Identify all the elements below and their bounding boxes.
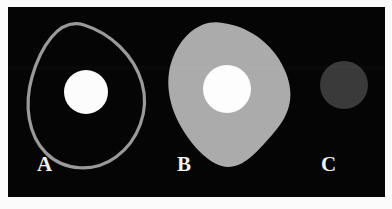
specimen-c-disc (320, 61, 368, 109)
panel-label-c: C (321, 154, 337, 175)
specimen-c-shape (300, 21, 385, 181)
specimen-a-core (64, 70, 108, 114)
panel-label-b: B (177, 154, 192, 175)
dark-imaging-panel: A B C (8, 7, 385, 197)
specimen-b-core (203, 65, 251, 113)
panel-label-a: A (37, 154, 53, 175)
figure-root: A B C (0, 0, 392, 209)
